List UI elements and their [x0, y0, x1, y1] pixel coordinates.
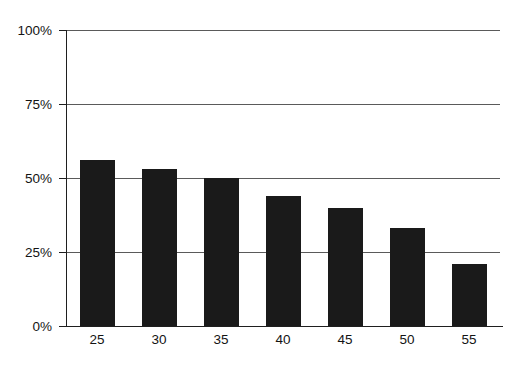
x-axis-tick-label: 40 — [275, 332, 290, 347]
bar — [390, 228, 425, 326]
bar — [266, 196, 301, 326]
x-axis-labels: 25303540455055 — [66, 332, 500, 358]
bars-layer — [66, 30, 500, 326]
x-axis-tick-label: 45 — [337, 332, 352, 347]
x-axis-tick-label: 50 — [399, 332, 414, 347]
y-axis-tick-label: 100% — [0, 23, 52, 38]
y-axis-tick — [59, 30, 66, 31]
bar — [80, 160, 115, 326]
y-axis-tick — [59, 252, 66, 253]
x-axis-tick-label: 25 — [89, 332, 104, 347]
y-axis-line — [66, 30, 67, 327]
x-axis-tick-label: 30 — [151, 332, 166, 347]
bar — [142, 169, 177, 326]
x-axis-tick-label: 35 — [213, 332, 228, 347]
y-axis-tick — [59, 104, 66, 105]
y-axis-labels: 100%75%50%25%0% — [0, 30, 59, 326]
bar — [452, 264, 487, 326]
y-axis-tick — [59, 326, 66, 327]
bar-chart: 100%75%50%25%0% 25303540455055 — [0, 0, 521, 371]
y-axis-tick-label: 0% — [0, 319, 52, 334]
y-axis-tick-label: 50% — [0, 171, 52, 186]
x-axis-tick-label: 55 — [461, 332, 476, 347]
plot-area — [66, 30, 500, 326]
bar — [204, 178, 239, 326]
y-axis-tick-label: 25% — [0, 245, 52, 260]
bar — [328, 208, 363, 326]
x-axis-line — [66, 326, 503, 327]
y-axis-tick-label: 75% — [0, 97, 52, 112]
y-axis-tick — [59, 178, 66, 179]
